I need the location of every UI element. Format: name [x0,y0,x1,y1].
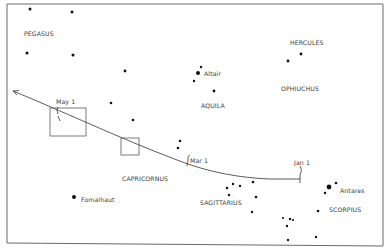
constellation-label-scorpius: SCORPIUS [329,206,361,213]
date-label-may-1: May 1 [56,98,75,106]
star-icon [335,182,338,185]
star-icon [226,187,229,190]
star-icon [72,54,75,57]
star-icon [228,194,230,196]
star-icon [196,71,200,75]
star-chart: PEGASUSHERCULESOPHIUCHUSAQUILACAPRICORNU… [0,0,386,249]
star-icon [282,217,284,219]
star-icon [193,80,195,82]
constellation-label-capricornus: CAPRICORNUS [122,175,168,182]
constellation-label-sagittarius: SAGITTARIUS [200,199,242,206]
star-icon [255,196,258,199]
star-icon [324,192,326,194]
constellation-label-aquila: AQUILA [201,102,225,109]
chart-frame [7,4,383,246]
star-icon [110,102,113,105]
star-label-altair: Altair [204,70,221,77]
observation-boxes [50,108,139,155]
star-icon [132,119,135,122]
date-label-mar-1: Mar 1 [190,157,208,164]
star-icon [26,52,29,55]
field-box-1 [121,138,139,155]
star-icon [315,236,317,238]
star-icon [71,11,74,14]
date-label-jan-1: Jan 1 [293,159,310,167]
star-icon [317,210,320,213]
star-icon [179,140,182,143]
star-icon [29,8,32,11]
star-icon [287,60,290,63]
star-icon [213,90,216,93]
star-icon [292,219,294,221]
may-1-tick [57,107,60,121]
star-icon [72,195,76,199]
star-icon [177,147,180,150]
star-icon [251,211,253,213]
star-icon [200,66,202,68]
star-label-fomalhaut: Fomalhaut [81,196,115,203]
constellation-label-pegasus: PEGASUS [24,30,54,37]
star-label-antares: Antares [340,187,365,194]
constellation-label-ophiuchus: OPHIUCHUS [281,85,319,92]
jan-1-tick [300,166,302,183]
star-icon [289,218,291,220]
star-icon [124,70,127,73]
star-icon [327,185,332,190]
constellation-label-hercules: HERCULES [290,39,324,46]
star-icon [232,183,234,185]
star-icon [300,53,303,56]
field-box-0 [50,108,86,136]
star-icon [239,185,241,187]
labels: PEGASUSHERCULESOPHIUCHUSAQUILACAPRICORNU… [24,30,365,213]
star-icon [287,239,289,241]
star-icon [286,225,288,227]
star-icon [252,181,255,184]
